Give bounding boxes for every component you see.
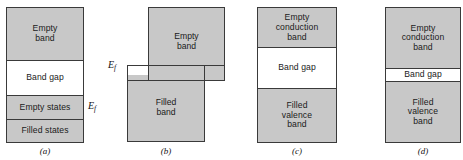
panel-c-conduction-label-line3: band [276,33,319,43]
band-structure-figure: Empty band Band gap Empty states Filled … [0,0,463,160]
panel-b-fermi-subscript: f [114,63,116,72]
panel-d-caption-text: (d) [418,146,429,156]
panel-b-empty-band-label: Empty band [149,32,224,51]
panel-b-empty-band-left-edge [148,65,149,81]
panel-d-band-gap-label: Band gap [404,70,442,80]
panel-c-empty-conduction-band: Empty conduction band [258,8,336,47]
panel-b-caption-text: (b) [161,146,172,156]
panel-d-filled-valence-band: Filled valence band [386,81,460,142]
panel-c-caption: (c) [257,146,337,156]
panel-c-band-gap: Band gap [258,47,336,87]
panel-d-conduction-label-line3: band [402,43,445,53]
panel-c-valence-label-line3: band [282,120,312,130]
panel-b-filled-band-label: Filled band [128,98,204,117]
panel-d-band-gap: Band gap [386,68,460,81]
panel-c: Empty conduction band Band gap Filled va… [257,7,337,143]
panel-b-filled-band-label-line2: band [128,108,204,118]
panel-c-caption-text: (c) [292,146,302,156]
panel-d-empty-conduction-band: Empty conduction band [386,8,460,68]
panel-b-caption: (b) [127,146,205,156]
panel-b: Empty band Filled band Ef (b) [0,0,240,160]
panel-c-band-stack: Empty conduction band Band gap Filled va… [257,7,337,143]
panel-d-caption: (d) [385,146,461,156]
panel-b-empty-band-label-line2: band [149,42,224,52]
panel-d-valence-label-line3: band [408,117,438,127]
panel-c-band-gap-label: Band gap [278,63,316,73]
panel-d: Empty conduction band Band gap Filled va… [385,7,461,143]
panel-d-band-stack: Empty conduction band Band gap Filled va… [385,7,461,143]
panel-b-fermi-overlap-frame [127,65,225,81]
panel-c-filled-valence-band: Filled valence band [258,88,336,142]
panel-b-fermi-level-label: Ef [108,59,116,72]
